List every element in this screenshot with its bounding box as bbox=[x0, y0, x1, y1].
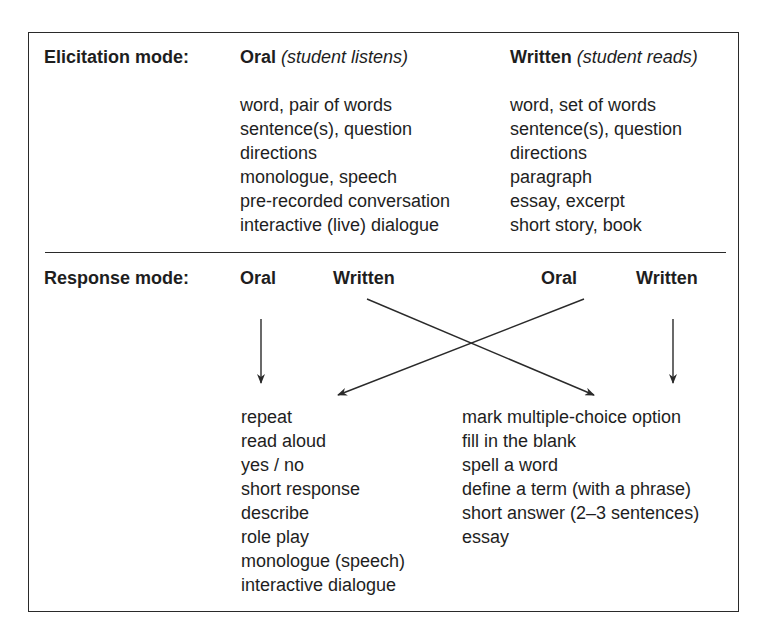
response-oral-list: repeat read aloud yes / no short respons… bbox=[241, 405, 405, 597]
list-item: pre-recorded conversation bbox=[240, 189, 450, 213]
elicitation-mode-label: Elicitation mode: bbox=[44, 45, 189, 69]
list-item: define a term (with a phrase) bbox=[462, 477, 699, 501]
list-item: interactive dialogue bbox=[241, 573, 405, 597]
response-mode-label: Response mode: bbox=[44, 266, 189, 290]
response-right-written-header: Written bbox=[636, 266, 698, 290]
list-item: essay, excerpt bbox=[510, 189, 682, 213]
elicitation-oral-header: Oral (student listens) bbox=[240, 45, 408, 69]
response-left-oral-header: Oral bbox=[240, 266, 276, 290]
list-item: sentence(s), question bbox=[240, 117, 450, 141]
elicitation-oral-note: (student listens) bbox=[281, 47, 408, 67]
list-item: monologue, speech bbox=[240, 165, 450, 189]
response-left-written-header: Written bbox=[333, 266, 395, 290]
section-divider bbox=[45, 252, 726, 253]
list-item: repeat bbox=[241, 405, 405, 429]
list-item: short answer (2–3 sentences) bbox=[462, 501, 699, 525]
list-item: directions bbox=[240, 141, 450, 165]
list-item: essay bbox=[462, 525, 699, 549]
list-item: yes / no bbox=[241, 453, 405, 477]
list-item: role play bbox=[241, 525, 405, 549]
list-item: directions bbox=[510, 141, 682, 165]
list-item: short story, book bbox=[510, 213, 682, 237]
list-item: word, set of words bbox=[510, 93, 682, 117]
elicitation-oral-list: word, pair of words sentence(s), questio… bbox=[240, 93, 450, 237]
elicitation-written-header: Written (student reads) bbox=[510, 45, 698, 69]
elicitation-written-note: (student reads) bbox=[577, 47, 698, 67]
list-item: mark multiple-choice option bbox=[462, 405, 699, 429]
list-item: read aloud bbox=[241, 429, 405, 453]
list-item: spell a word bbox=[462, 453, 699, 477]
list-item: describe bbox=[241, 501, 405, 525]
list-item: paragraph bbox=[510, 165, 682, 189]
list-item: word, pair of words bbox=[240, 93, 450, 117]
response-right-oral-header: Oral bbox=[541, 266, 577, 290]
list-item: fill in the blank bbox=[462, 429, 699, 453]
list-item: sentence(s), question bbox=[510, 117, 682, 141]
response-written-list: mark multiple-choice option fill in the … bbox=[462, 405, 699, 549]
list-item: interactive (live) dialogue bbox=[240, 213, 450, 237]
list-item: monologue (speech) bbox=[241, 549, 405, 573]
list-item: short response bbox=[241, 477, 405, 501]
elicitation-written-title: Written bbox=[510, 47, 572, 67]
elicitation-oral-title: Oral bbox=[240, 47, 276, 67]
elicitation-written-list: word, set of words sentence(s), question… bbox=[510, 93, 682, 237]
